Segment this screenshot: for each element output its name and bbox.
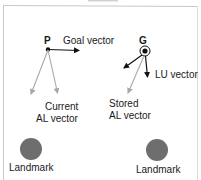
stored-al-label-line2: AL vector <box>109 110 152 121</box>
current-al-vector-arrow-left <box>31 50 48 94</box>
current-al-label-line1: Current <box>45 101 79 112</box>
goal-vector-arrow <box>48 50 79 51</box>
stored-al-vector-arrow <box>128 56 144 93</box>
stored-al-label-line1: Stored <box>109 98 138 109</box>
landmark-right-circle <box>146 139 168 161</box>
node-p-label: P <box>44 35 51 46</box>
landmark-right-label: Landmark <box>136 164 181 175</box>
node-g-label: G <box>139 35 147 46</box>
landmark-left-circle <box>20 138 42 160</box>
lu-vector-label: LU vector <box>155 69 198 80</box>
goal-vector-label: Goal vector <box>63 35 115 46</box>
goal-center-dot <box>142 48 147 53</box>
diagram-canvas: P Goal vector Current AL vector G LU vec… <box>0 0 201 180</box>
landmark-left-label: Landmark <box>9 162 54 173</box>
node-g: G <box>139 35 150 56</box>
current-al-vector-arrow-right <box>48 50 58 93</box>
current-al-label-line2: AL vector <box>36 113 79 124</box>
lu-vector-arrow <box>146 56 148 77</box>
